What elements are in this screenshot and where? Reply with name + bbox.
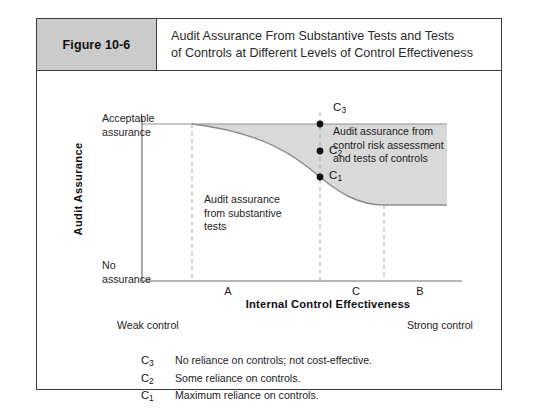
point-label-c2-subscript: 2 <box>338 148 343 158</box>
legend-key-c2-letter: C <box>141 372 149 384</box>
annotation-substantive-tests: Audit assurance from substantive tests <box>204 193 309 234</box>
figure-frame: Figure 10-6 Audit Assurance From Substan… <box>36 18 502 390</box>
point-label-c2-letter: C <box>329 144 338 156</box>
legend-desc-c1: Maximum reliance on controls. <box>175 388 319 403</box>
x-tick-label-c: C <box>346 285 366 297</box>
point-label-c3-letter: C <box>333 101 342 113</box>
annotation-control-risk: Audit assurance from control risk assess… <box>333 125 451 166</box>
legend-desc-c3: No reliance on controls; not cost-effect… <box>175 353 372 368</box>
point-label-c1-subscript: 1 <box>338 173 343 183</box>
legend-key-c1-letter: C <box>141 389 149 401</box>
legend-desc-c2: Some reliance on controls. <box>175 371 300 386</box>
data-point-c1 <box>317 174 324 181</box>
legend-key-c2: C2 <box>141 371 175 389</box>
figure-number-label: Figure 10-6 <box>63 38 131 52</box>
legend-key-c1-subscript: 1 <box>149 393 154 403</box>
figure-number-box: Figure 10-6 <box>37 19 157 70</box>
chart-legend: C3 No reliance on controls; not cost-eff… <box>141 353 372 406</box>
figure-header: Figure 10-6 Audit Assurance From Substan… <box>37 19 501 71</box>
x-tick-label-b: B <box>410 285 430 297</box>
legend-item: C2 Some reliance on controls. <box>141 371 372 389</box>
legend-key-c2-subscript: 2 <box>149 376 154 386</box>
figure-title: Audit Assurance From Substantive Tests a… <box>171 28 473 62</box>
y-axis-bottom-label: No assurance <box>102 259 151 286</box>
y-axis-title: Audit Assurance <box>72 124 84 254</box>
point-label-c2: C2 <box>329 144 342 158</box>
x-axis-left-note: Weak control <box>117 319 179 333</box>
legend-item: C1 Maximum reliance on controls. <box>141 388 372 406</box>
legend-key-c3-subscript: 3 <box>149 358 154 368</box>
chart-plot-area: Acceptable assurance No assurance Audit … <box>37 71 501 391</box>
figure-title-box: Audit Assurance From Substantive Tests a… <box>157 19 501 70</box>
data-point-c2 <box>317 148 324 155</box>
x-axis-title: Internal Control Effectiveness <box>178 298 478 310</box>
point-label-c1: C1 <box>329 169 342 183</box>
point-label-c3-subscript: 3 <box>342 105 347 115</box>
x-tick-label-a: A <box>218 285 238 297</box>
legend-key-c1: C1 <box>141 388 175 406</box>
legend-key-c3: C3 <box>141 353 175 371</box>
legend-item: C3 No reliance on controls; not cost-eff… <box>141 353 372 371</box>
x-axis-right-note: Strong control <box>407 319 473 333</box>
legend-key-c3-letter: C <box>141 354 149 366</box>
data-point-c3 <box>317 121 324 128</box>
point-label-c1-letter: C <box>329 169 338 181</box>
point-label-c3: C3 <box>333 101 346 115</box>
y-axis-top-label: Acceptable assurance <box>102 112 154 139</box>
